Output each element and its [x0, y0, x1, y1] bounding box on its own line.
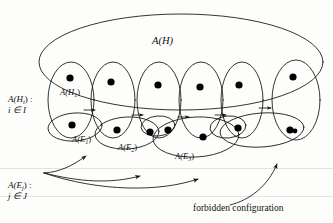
caption-forbidden-configuration: forbidden configuration [193, 203, 284, 214]
element-dot [289, 73, 296, 80]
vertical-ellipse-5 [221, 62, 263, 138]
element-dot [234, 124, 241, 131]
element-dot [199, 133, 206, 140]
label-outer-set: A(H) [152, 35, 173, 47]
label-edge-E3: A(E3) [175, 152, 194, 163]
element-dot [154, 81, 161, 88]
element-dot [164, 126, 171, 133]
edge-ellipse-E6 [140, 115, 176, 138]
element-dot [286, 126, 293, 133]
element-dot [113, 126, 120, 133]
element-dot [235, 81, 242, 88]
element-dot [196, 83, 203, 90]
annotation-arrow-E3 [44, 173, 198, 188]
element-dot [68, 121, 75, 128]
label-vertex-set-H1: A(H1) [60, 88, 80, 99]
vertical-ellipse-6 [272, 60, 320, 140]
element-dot [293, 129, 298, 134]
vertical-ellipse-4 [179, 62, 223, 138]
label-family-E-index: j ∈ J [8, 191, 32, 201]
label-family-E: A(Ej) : j ∈ J [8, 180, 32, 201]
figure-canvas: A(H) A(H1) A(E1) A(E2) A(E3) A(Hi) : i ∈… [0, 0, 333, 223]
label-edge-E1: A(E1) [72, 135, 91, 146]
label-family-H-index: i ∈ I [8, 105, 33, 115]
annotation-arrow-E1 [44, 156, 86, 173]
label-edge-E2: A(E2) [118, 143, 137, 154]
element-dot [146, 128, 153, 135]
annotation-arrow-E2 [44, 173, 140, 181]
vertical-ellipse-2 [91, 62, 135, 138]
label-family-H: A(Hi) : i ∈ I [8, 94, 33, 115]
annotation-arrow-forbidden [230, 164, 277, 205]
element-dot [66, 74, 73, 81]
element-dot [107, 78, 114, 85]
set-diagram-svg [0, 0, 333, 223]
